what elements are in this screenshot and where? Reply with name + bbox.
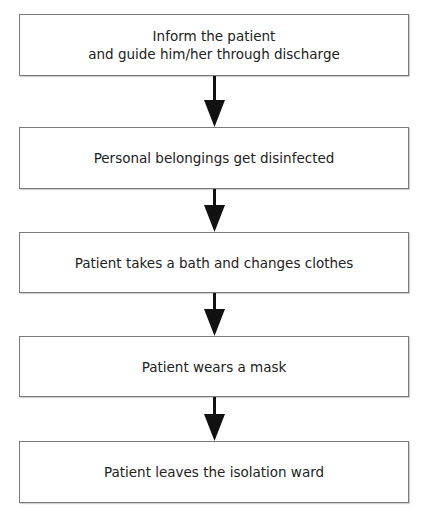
step-text-line: Personal belongings get disinfected (94, 149, 335, 167)
arrow-down-icon (204, 293, 225, 337)
step-inform-patient: Inform the patient and guide him/her thr… (19, 14, 409, 76)
step-text-line: Patient wears a mask (142, 358, 287, 376)
arrow-down-icon (204, 76, 225, 128)
step-text-line: and guide him/her through discharge (88, 45, 340, 63)
step-text-line: Patient takes a bath and changes clothes (75, 254, 354, 272)
step-wear-mask: Patient wears a mask (19, 336, 409, 397)
arrow-down-icon (204, 189, 225, 233)
arrow-down-icon (204, 397, 225, 442)
step-text-line: Inform the patient (153, 27, 276, 45)
step-leave-isolation-ward: Patient leaves the isolation ward (19, 441, 409, 503)
step-disinfect-belongings: Personal belongings get disinfected (19, 127, 409, 189)
step-bath-change-clothes: Patient takes a bath and changes clothes (19, 232, 409, 293)
step-text-line: Patient leaves the isolation ward (104, 463, 324, 481)
